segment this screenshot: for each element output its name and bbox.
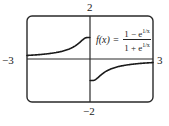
function-formula: f(x) = 1 − e1/x 1 + e1/x <box>96 26 151 53</box>
formula-denominator: 1 + e1/x <box>123 40 151 53</box>
y-min-tick-label: −2 <box>83 106 95 117</box>
numerator-text: 1 − e <box>124 29 142 39</box>
formula-lhs: f(x) = <box>96 34 119 45</box>
x-min-tick-label: −3 <box>2 55 14 66</box>
curve-left-branch <box>27 38 90 56</box>
denominator-exponent: 1/x <box>142 42 150 48</box>
denominator-text: 1 + e <box>124 43 142 53</box>
formula-fraction: 1 − e1/x 1 + e1/x <box>123 26 151 53</box>
numerator-exponent: 1/x <box>142 28 150 34</box>
y-max-tick-label: 2 <box>87 2 93 13</box>
formula-numerator: 1 − e1/x <box>123 26 151 40</box>
x-max-tick-label: 3 <box>157 55 163 66</box>
curve-right-branch <box>90 63 153 81</box>
